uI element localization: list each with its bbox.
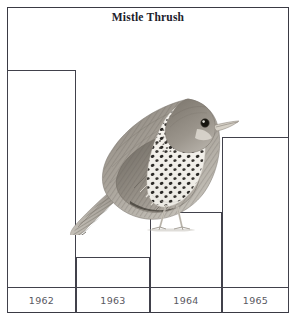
axis-label-1963: 1963 [76, 293, 150, 309]
axis-label-1962: 1962 [7, 293, 76, 309]
axis-label-1965: 1965 [222, 293, 289, 309]
plot-frame [7, 7, 289, 313]
bird-population-bar-chart-figure: Mistle Thrush [0, 0, 296, 321]
axis-label-1964: 1964 [150, 293, 222, 309]
